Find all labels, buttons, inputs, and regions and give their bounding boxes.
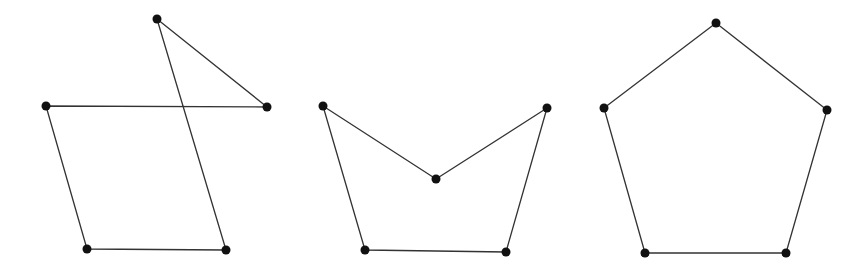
polygon-edges	[46, 19, 267, 250]
figure-concave-pentagon	[319, 102, 552, 257]
vertex-dot	[42, 102, 51, 111]
vertex-dot	[712, 19, 721, 28]
vertex-dot	[222, 246, 231, 255]
figure-convex-pentagon	[600, 19, 832, 258]
vertex-dot	[263, 103, 272, 112]
vertex-dot	[432, 175, 441, 184]
polygon-edges	[604, 23, 827, 253]
vertex-dot	[641, 249, 650, 258]
vertex-dot	[153, 15, 162, 24]
vertex-dot	[782, 249, 791, 258]
vertex-dot	[83, 245, 92, 254]
polygon-diagram	[0, 0, 864, 270]
vertex-dot	[361, 246, 370, 255]
vertex-dot	[543, 104, 552, 113]
figure-self-intersecting-pentagon	[42, 15, 272, 255]
vertex-dot	[319, 102, 328, 111]
vertex-dot	[502, 248, 511, 257]
vertex-dot	[823, 106, 832, 115]
vertex-dot	[600, 104, 609, 113]
